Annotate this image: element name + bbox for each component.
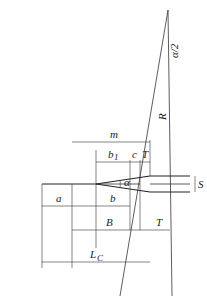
diagram-canvas: m b 1 c T α a b B T L C S R α/2 <box>0 0 207 307</box>
label-alpha-half: α/2 <box>168 43 180 58</box>
wing-rail-upper <box>96 176 150 184</box>
label-b1-sub: 1 <box>114 152 119 162</box>
wing-rail-lower <box>96 184 150 192</box>
label-B: B <box>106 216 113 228</box>
frog-geometry-diagram: m b 1 c T α a b B T L C S R α/2 <box>0 0 207 307</box>
label-R: R <box>156 113 168 121</box>
label-b: b <box>110 192 116 204</box>
label-m: m <box>110 128 118 140</box>
label-T-bottom: T <box>156 216 163 228</box>
label-T-top: T <box>142 148 149 160</box>
label-Lc: L <box>89 248 96 260</box>
label-Lc-sub: C <box>97 253 104 263</box>
label-S: S <box>198 178 204 190</box>
label-c: c <box>132 148 137 160</box>
label-a: a <box>56 192 62 204</box>
label-alpha: α <box>124 176 130 188</box>
